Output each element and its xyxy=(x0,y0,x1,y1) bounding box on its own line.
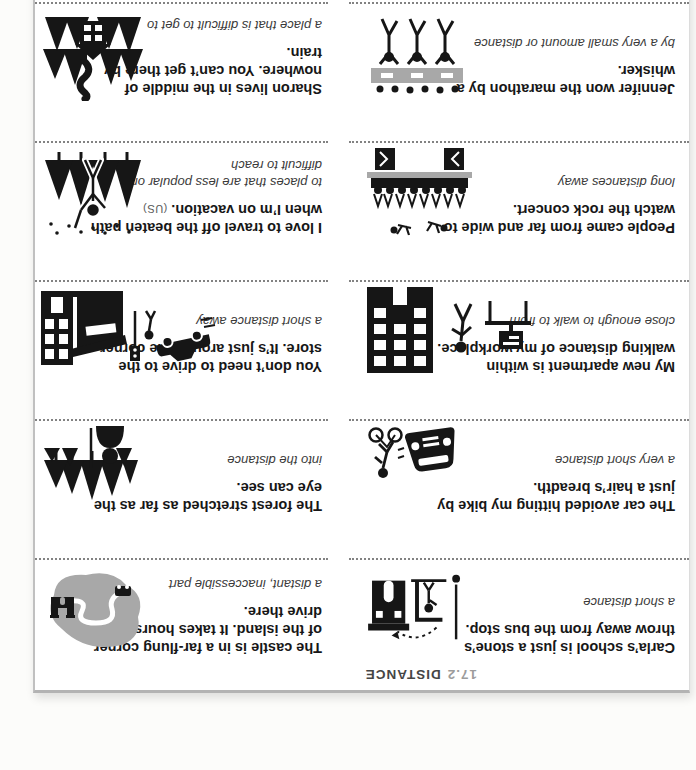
apartment-walk-workplace-icon xyxy=(363,287,533,379)
photo-background: 17.2DISTANCE Carla’s school is just a st… xyxy=(0,0,696,770)
card-row: My new apartment is within walking dista… xyxy=(35,280,689,419)
phrase-span: Carla’s school is just a stone’s throw a… xyxy=(464,622,675,656)
concert-crowd-icon xyxy=(367,148,472,240)
book-page: 17.2DISTANCE Carla’s school is just a st… xyxy=(33,0,690,693)
definition-text: into the distance xyxy=(112,451,322,468)
definition-text: a short distance xyxy=(465,593,675,610)
card-row: Carla’s school is just a stone’s throw a… xyxy=(35,558,689,690)
card-row: The car avoided hitting my bike by just … xyxy=(35,419,689,558)
card-row: Jennifer won the marathon by a whisker. … xyxy=(35,2,689,141)
forest-viewer-icon xyxy=(43,426,138,514)
definition-text: long distances away xyxy=(465,173,675,190)
card-row: People came from far and wide to watch t… xyxy=(35,141,689,280)
phrase-text: Jennifer won the marathon by a whisker. xyxy=(432,61,675,97)
car-bicycle-icon xyxy=(367,426,467,486)
vocab-card-by-a-whisker: Jennifer won the marathon by a whisker. … xyxy=(349,2,689,141)
hiker-trees-icon xyxy=(43,148,143,238)
definition-text: a very short distance xyxy=(465,451,675,468)
island-map-icon xyxy=(43,565,148,657)
marathon-finish-icon xyxy=(367,9,467,101)
rotated-sheet: 17.2DISTANCE Carla’s school is just a st… xyxy=(35,0,689,690)
vocab-card-around-corner: You don’t need to drive to the store. It… xyxy=(35,280,328,419)
phrase-text: The car avoided hitting my bike by just … xyxy=(432,478,675,514)
vocab-card-walking-distance: My new apartment is within walking dista… xyxy=(349,280,689,419)
house-forest-train-icon xyxy=(43,9,143,101)
definition-text: by a very small amount or distance xyxy=(465,34,675,51)
vocab-card-stones-throw: Carla’s school is just a stone’s throw a… xyxy=(349,558,689,690)
vocab-card-middle-of-nowhere: Sharon lives in the middle of nowhere. Y… xyxy=(35,2,328,141)
vocab-card-beaten-path: I love to travel off the beaten path whe… xyxy=(35,141,328,280)
vocab-card-eye-can-see: The forest stretched as far as the eye c… xyxy=(35,419,328,558)
phrase-span: People came from far and wide to watch t… xyxy=(444,202,675,236)
phrase-span: Jennifer won the marathon by a whisker. xyxy=(457,63,675,97)
store-corner-icon xyxy=(39,287,219,375)
school-bus-stop-icon xyxy=(367,565,467,653)
definition-text: to places that are less popular or diffi… xyxy=(112,156,322,190)
vocab-card-far-and-wide: People came from far and wide to watch t… xyxy=(349,141,689,280)
phrase-span: The car avoided hitting my bike by just … xyxy=(437,480,675,514)
usage-note: (US) xyxy=(143,203,168,215)
phrase-text: Carla’s school is just a stone’s throw a… xyxy=(432,620,675,656)
definition-text: a place that is difficult to get to xyxy=(112,16,322,33)
vocab-card-far-flung: The castle is in a far-flung corner of t… xyxy=(35,558,328,690)
vocab-card-hairs-breadth: The car avoided hitting my bike by just … xyxy=(349,419,689,558)
